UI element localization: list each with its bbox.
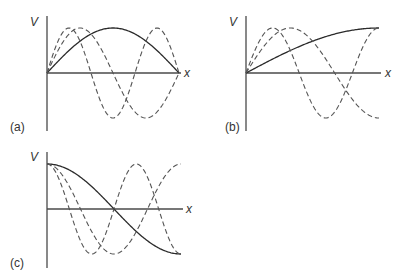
panel-c: V x (c): [10, 150, 193, 270]
panel-b: V x (b): [225, 15, 392, 134]
solid-curve: [246, 28, 379, 73]
panel-label: (c): [10, 256, 24, 270]
x-axis-label: x: [185, 202, 193, 216]
standing-wave-figure: V x (a) V x (b) V x (c): [0, 0, 402, 277]
panel-a: V x (a): [10, 15, 191, 134]
panel-label: (a): [10, 120, 25, 134]
x-axis-label: x: [384, 66, 392, 80]
y-axis-label: V: [30, 150, 39, 164]
y-axis-label: V: [229, 15, 238, 29]
solid-curve: [47, 28, 179, 73]
panel-label: (b): [225, 120, 240, 134]
x-axis-label: x: [183, 66, 191, 80]
y-axis-label: V: [30, 15, 39, 29]
